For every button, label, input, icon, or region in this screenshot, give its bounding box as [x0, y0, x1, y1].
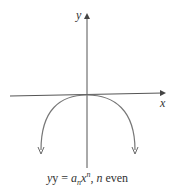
y-axis-label: y — [76, 8, 81, 23]
equation-caption: yy = anxn, n even — [0, 170, 175, 187]
graph — [0, 0, 175, 194]
curve — [41, 95, 135, 150]
x-axis-label: x — [160, 96, 165, 111]
